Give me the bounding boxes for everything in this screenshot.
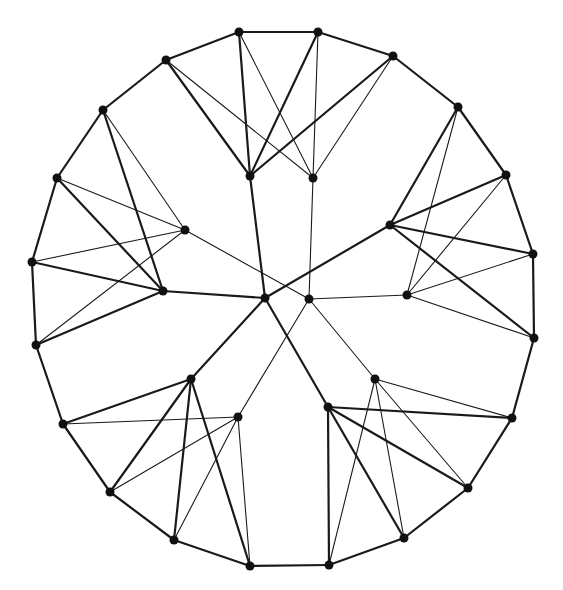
edge-AD-S	[328, 407, 512, 418]
nodes-layer	[28, 28, 539, 571]
edge-X-Z	[63, 424, 110, 492]
edge-A-E	[239, 32, 250, 176]
edge-H-I	[57, 178, 185, 230]
edge-N-Q	[309, 295, 407, 299]
node-W	[530, 334, 539, 343]
edge-W-V	[533, 254, 534, 338]
edge-AE-AD	[468, 418, 512, 488]
edge-AE-S	[328, 407, 468, 488]
node-K	[159, 287, 168, 296]
node-Y	[234, 413, 243, 422]
node-D	[389, 52, 398, 61]
node-P	[386, 221, 395, 230]
edge-H-J	[32, 178, 57, 262]
edge-T-Q	[407, 107, 458, 295]
node-X	[59, 420, 68, 429]
edge-T-P	[390, 107, 458, 225]
node-A	[235, 28, 244, 37]
node-AA	[170, 536, 179, 545]
edge-M-P	[265, 225, 390, 298]
edge-W-Q	[407, 295, 534, 338]
edge-N-F	[309, 178, 313, 299]
node-F	[309, 174, 318, 183]
node-AF	[400, 534, 409, 543]
edge-X-Y	[63, 417, 238, 424]
node-AG	[325, 561, 334, 570]
node-G	[99, 106, 108, 115]
edge-L-X	[36, 345, 63, 424]
edge-T-D	[393, 56, 458, 107]
edge-AG-S	[328, 407, 329, 565]
edge-L-K	[36, 291, 163, 345]
edge-X-R	[63, 379, 191, 424]
edges-layer	[32, 32, 534, 566]
node-E	[246, 172, 255, 181]
node-AC	[371, 375, 380, 384]
node-C	[162, 56, 171, 65]
edge-AA-AB	[174, 540, 250, 566]
node-N	[305, 295, 314, 304]
edge-N-I	[185, 230, 309, 299]
edge-D-E	[250, 56, 393, 176]
edge-AA-R	[174, 379, 191, 540]
edge-Z-AA	[110, 492, 174, 540]
node-U	[502, 171, 511, 180]
node-J	[28, 258, 37, 267]
node-T	[454, 103, 463, 112]
edge-AE-AC	[375, 379, 468, 488]
edge-M-S	[265, 298, 328, 407]
edge-V-U	[506, 175, 533, 254]
node-AE	[464, 484, 473, 493]
edge-AD-AC	[375, 379, 512, 418]
edge-AF-AE	[404, 488, 468, 538]
node-M	[261, 294, 270, 303]
node-L	[32, 341, 41, 350]
edge-AB-R	[191, 379, 250, 566]
edge-J-I	[32, 230, 185, 262]
node-B	[314, 28, 323, 37]
edge-M-K	[163, 291, 265, 298]
node-R	[187, 375, 196, 384]
edge-M-E	[250, 176, 265, 298]
node-AD	[508, 414, 517, 423]
edge-B-D	[318, 32, 393, 56]
edge-AG-AF	[329, 538, 404, 565]
edge-G-H	[57, 110, 103, 178]
edge-C-A	[166, 32, 239, 60]
edge-U-P	[390, 175, 506, 225]
edge-N-AC	[309, 299, 375, 379]
edge-W-P	[390, 225, 534, 338]
edge-C-G	[103, 60, 166, 110]
edge-J-L	[32, 262, 36, 345]
edge-A-F	[239, 32, 313, 178]
edge-G-I	[103, 110, 185, 230]
node-AB	[246, 562, 255, 571]
edge-AB-AG	[250, 565, 329, 566]
edge-J-K	[32, 262, 163, 291]
edge-U-T	[458, 107, 506, 175]
edge-AD-W	[512, 338, 534, 418]
node-Z	[106, 488, 115, 497]
edge-H-K	[57, 178, 163, 291]
edge-M-R	[191, 298, 265, 379]
node-H	[53, 174, 62, 183]
edge-Z-R	[110, 379, 191, 492]
graph-diagram	[0, 0, 563, 590]
node-I	[181, 226, 190, 235]
edge-D-F	[313, 56, 393, 178]
node-Q	[403, 291, 412, 300]
edge-B-F	[313, 32, 318, 178]
node-S	[324, 403, 333, 412]
node-V	[529, 250, 538, 259]
